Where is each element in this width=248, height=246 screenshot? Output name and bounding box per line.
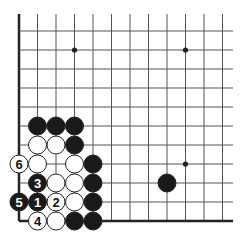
white-stone-icon — [66, 155, 84, 173]
black-stone — [84, 174, 102, 192]
black-stone-icon — [47, 117, 65, 135]
black-stone-icon — [84, 212, 102, 230]
white-stone-icon — [66, 174, 84, 192]
white-stone — [66, 174, 84, 192]
black-stone-icon — [66, 136, 84, 154]
move-number-label: 1 — [34, 195, 41, 210]
black-stone — [66, 136, 84, 154]
black-stone — [84, 212, 102, 230]
black-stone — [84, 155, 102, 173]
black-stone — [47, 117, 65, 135]
black-stone — [29, 117, 47, 135]
black-stone-icon — [66, 117, 84, 135]
move-number-label: 6 — [15, 157, 22, 172]
black-stone-move-5: 5 — [10, 193, 28, 211]
move-number-label: 4 — [34, 214, 42, 229]
black-stone-move-3: 3 — [29, 174, 47, 192]
white-stone — [47, 136, 65, 154]
white-stone — [29, 136, 47, 154]
white-stone-icon — [66, 193, 84, 211]
black-stone-icon — [158, 174, 176, 192]
black-stone — [158, 174, 176, 192]
white-stone-icon — [29, 155, 47, 173]
black-stone-move-1: 1 — [29, 193, 47, 211]
black-stone-icon — [84, 174, 102, 192]
white-stone-icon — [47, 174, 65, 192]
white-stone-move-2: 2 — [47, 193, 65, 211]
white-stone — [29, 155, 47, 173]
white-stone-move-6: 6 — [10, 155, 28, 173]
white-stone — [47, 174, 65, 192]
black-stone-icon — [29, 117, 47, 135]
white-stone-move-4: 4 — [29, 212, 47, 230]
black-stone-icon — [66, 212, 84, 230]
star-point-icon — [183, 47, 188, 52]
black-stone-icon — [84, 155, 102, 173]
go-board-svg: 635124 — [0, 0, 248, 246]
white-stone-icon — [29, 136, 47, 154]
star-point-icon — [72, 47, 77, 52]
white-stone — [66, 193, 84, 211]
move-number-label: 5 — [15, 195, 22, 210]
move-number-label: 3 — [34, 176, 41, 191]
white-stone-icon — [47, 212, 65, 230]
black-stone — [84, 193, 102, 211]
star-point-icon — [183, 161, 188, 166]
move-number-label: 2 — [52, 195, 59, 210]
white-stone — [47, 212, 65, 230]
white-stone — [66, 155, 84, 173]
white-stone-icon — [47, 136, 65, 154]
black-stone — [66, 117, 84, 135]
black-stone-icon — [84, 193, 102, 211]
go-board: 635124 — [0, 0, 248, 246]
black-stone — [66, 212, 84, 230]
